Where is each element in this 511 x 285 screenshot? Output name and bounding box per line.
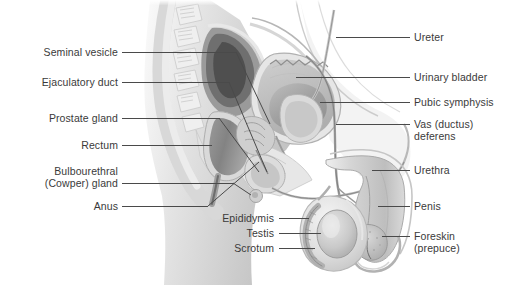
label-bulbourethral-line1: Bulbourethral xyxy=(8,165,118,178)
leader-vas-deferens xyxy=(336,124,410,125)
leader-ejaculatory-duct xyxy=(122,82,230,83)
leader-penis xyxy=(378,206,410,207)
label-foreskin-line1: Foreskin xyxy=(414,230,455,243)
anatomy-figure: Seminal vesicle Ejaculatory duct Prostat… xyxy=(0,0,511,285)
label-epididymis: Epididymis xyxy=(208,212,274,225)
leader-testis xyxy=(279,233,321,234)
label-foreskin-line2: (prepuce) xyxy=(414,242,460,255)
leader-epididymis xyxy=(279,218,309,219)
label-seminal-vesicle: Seminal vesicle xyxy=(8,46,118,59)
leader-angle-anus xyxy=(207,160,267,208)
label-pubic-symphysis: Pubic symphysis xyxy=(414,96,494,109)
label-anus: Anus xyxy=(60,200,118,213)
leader-ureter xyxy=(336,37,410,38)
label-bulbourethral-line2: (Cowper) gland xyxy=(8,177,118,190)
label-prostate-gland: Prostate gland xyxy=(8,112,118,125)
label-testis: Testis xyxy=(208,227,274,240)
label-vas-deferens-line1: Vas (ductus) xyxy=(414,118,473,131)
leader-urinary-bladder xyxy=(296,77,410,78)
label-urinary-bladder: Urinary bladder xyxy=(414,71,487,84)
label-ureter: Ureter xyxy=(414,31,444,44)
label-penis: Penis xyxy=(414,200,441,213)
leader-foreskin xyxy=(382,236,410,237)
leader-rectum xyxy=(122,145,212,146)
leader-pubic-symphysis xyxy=(320,102,410,103)
label-rectum: Rectum xyxy=(8,139,118,152)
leader-scrotum xyxy=(279,248,315,249)
label-ejaculatory-duct: Ejaculatory duct xyxy=(8,76,118,89)
label-vas-deferens-line2: deferens xyxy=(414,130,456,143)
leader-prostate-gland xyxy=(122,118,220,119)
label-urethra: Urethra xyxy=(414,164,450,177)
leader-anus xyxy=(122,206,208,207)
leader-urethra xyxy=(372,170,410,171)
leader-seminal-vesicle xyxy=(122,52,237,53)
label-scrotum: Scrotum xyxy=(200,242,274,255)
